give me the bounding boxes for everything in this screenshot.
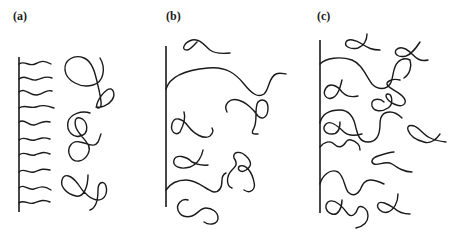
brush-chain (19, 169, 50, 172)
brush-chain (19, 121, 50, 125)
free-coil (372, 79, 406, 110)
free-coils-a (62, 57, 114, 210)
panel-a (19, 57, 114, 212)
panel-b (166, 40, 286, 224)
adsorbed-chains-b (166, 68, 286, 192)
polymer-surface-figure: (a) (b) (c) (0, 0, 449, 236)
brush-chain (19, 90, 52, 95)
free-coil (346, 34, 380, 50)
panel-c (320, 34, 446, 228)
free-coil (62, 175, 107, 210)
adsorbed-chains-c (320, 58, 411, 195)
free-coil (68, 112, 101, 161)
free-coil (226, 100, 268, 134)
brush-chain (19, 106, 54, 108)
free-coil (172, 112, 213, 137)
free-coils-c (324, 34, 446, 228)
free-coil (178, 200, 218, 224)
brush-chain (19, 186, 51, 190)
free-coil (372, 152, 412, 172)
free-coils-b (172, 40, 268, 224)
free-coil (184, 40, 230, 54)
brush-chain (19, 138, 50, 140)
free-coil (395, 42, 428, 61)
free-coil (408, 126, 446, 143)
diagram-canvas (0, 0, 449, 236)
free-coil (65, 57, 114, 108)
brush-chain (19, 61, 51, 64)
free-coil (228, 152, 255, 191)
free-coil (326, 200, 368, 228)
adsorbed-chain (166, 68, 286, 96)
brush-chain (19, 152, 50, 155)
brush-chain (19, 200, 50, 203)
adsorbed-chain (320, 140, 360, 150)
adsorbed-chain (166, 173, 226, 192)
brush-chain (19, 77, 52, 80)
free-coil (324, 80, 358, 98)
adsorbed-chain (320, 58, 411, 89)
free-coil (378, 194, 410, 214)
adsorbed-chain (320, 171, 384, 195)
grafted-brush-chains (19, 61, 54, 203)
adsorbed-chain (320, 110, 402, 142)
free-coil (174, 150, 208, 168)
